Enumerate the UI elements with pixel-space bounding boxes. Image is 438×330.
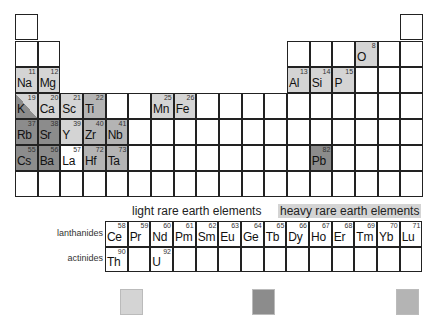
empty-cell <box>106 93 129 119</box>
empty-cell <box>264 145 287 171</box>
atomic-number: 73 <box>119 146 127 153</box>
atomic-number: 67 <box>322 222 330 229</box>
element-cell-th: Th90 <box>105 247 128 273</box>
element-symbol: Ti <box>85 102 94 116</box>
empty-cell <box>310 41 333 67</box>
element-symbol: Rb <box>17 128 32 142</box>
empty-cell <box>196 93 219 119</box>
empty-cell <box>174 145 197 171</box>
empty-cell <box>219 171 242 197</box>
element-symbol: Y <box>62 128 70 142</box>
element-symbol: Yb <box>379 230 393 244</box>
empty-cell <box>400 93 423 119</box>
empty-cell <box>128 145 151 171</box>
element-cell-ti: Ti22 <box>83 93 106 119</box>
element-symbol: Ba <box>40 154 54 168</box>
empty-cell <box>174 119 197 145</box>
empty-cell <box>128 119 151 145</box>
element-cell-k: K19 <box>15 93 38 119</box>
empty-cell <box>60 171 83 197</box>
element-symbol: Hf <box>85 154 96 168</box>
element-symbol: Tm <box>356 230 373 244</box>
element-cell-tm: Tm69 <box>354 221 377 247</box>
heavy-ree-label: heavy rare earth elements <box>278 204 421 218</box>
atomic-number: 65 <box>277 222 285 229</box>
element-cell-si: Si14 <box>310 67 333 93</box>
empty-cell <box>38 171 61 197</box>
element-symbol: Mn <box>153 102 169 116</box>
empty-cell <box>400 247 423 273</box>
empty-cell <box>15 171 38 197</box>
empty-cell <box>128 93 151 119</box>
atomic-number: 55 <box>28 146 36 153</box>
element-symbol: Mg <box>40 76 56 90</box>
empty-cell <box>378 145 401 171</box>
atomic-number: 63 <box>231 222 239 229</box>
empty-cell <box>196 171 219 197</box>
atomic-number: 71 <box>413 222 421 229</box>
element-symbol: Sm <box>198 230 215 244</box>
legend-swatch-hfs <box>396 289 419 315</box>
element-cell-la: La57 <box>60 145 83 171</box>
element-symbol: K <box>17 102 25 116</box>
empty-cell <box>400 145 423 171</box>
light-ree-label: light rare earth elements <box>132 204 261 218</box>
element-symbol: Cs <box>17 154 31 168</box>
element-symbol: Ho <box>311 230 326 244</box>
empty-cell <box>15 14 38 40</box>
empty-cell <box>286 247 309 273</box>
element-cell-ho: Ho67 <box>309 221 332 247</box>
atomic-number: 68 <box>345 222 353 229</box>
atomic-number: 90 <box>118 248 126 255</box>
empty-cell <box>106 171 129 197</box>
element-cell-lu: Lu71 <box>400 221 423 247</box>
element-symbol: Ge <box>243 230 258 244</box>
element-cell-mg: Mg12 <box>38 67 61 93</box>
empty-cell <box>355 93 378 119</box>
atomic-number: 59 <box>141 222 149 229</box>
element-symbol: Ce <box>107 230 122 244</box>
atomic-number: 8 <box>372 42 376 49</box>
empty-cell <box>378 119 401 145</box>
atomic-number: 62 <box>209 222 217 229</box>
element-symbol: Sc <box>62 102 75 116</box>
empty-cell <box>332 93 355 119</box>
element-symbol: Al <box>289 76 299 90</box>
atomic-number: 37 <box>28 120 36 127</box>
empty-cell <box>83 171 106 197</box>
element-symbol: Ca <box>40 102 55 116</box>
empty-cell <box>309 247 332 273</box>
empty-cell <box>151 171 174 197</box>
empty-cell <box>219 119 242 145</box>
element-cell-pm: Pm61 <box>173 221 196 247</box>
atomic-number: 72 <box>96 146 104 153</box>
empty-cell <box>400 14 423 40</box>
element-cell-ta: Ta73 <box>106 145 129 171</box>
empty-cell <box>355 171 378 197</box>
element-cell-ca: Ca20 <box>38 93 61 119</box>
atomic-number: 56 <box>51 146 59 153</box>
atomic-number: 21 <box>73 94 81 101</box>
empty-cell <box>287 145 310 171</box>
atomic-number: 40 <box>96 120 104 127</box>
atomic-number: 20 <box>51 94 59 101</box>
empty-cell <box>400 171 423 197</box>
atomic-number: 26 <box>187 94 195 101</box>
element-symbol: Th <box>107 255 120 269</box>
element-cell-nd: Nd60 <box>150 221 173 247</box>
element-symbol: Si <box>312 76 322 90</box>
element-cell-ce: Ce58 <box>105 221 128 247</box>
actinides-label: actinides <box>23 253 103 263</box>
element-symbol: Nb <box>108 128 123 142</box>
element-symbol: Pb <box>312 154 326 168</box>
element-symbol: Er <box>334 230 345 244</box>
empty-cell <box>218 247 241 273</box>
element-cell-sc: Sc21 <box>60 93 83 119</box>
empty-cell <box>196 119 219 145</box>
atomic-number: 11 <box>28 68 35 75</box>
element-cell-pr: Pr59 <box>128 221 151 247</box>
empty-cell <box>400 41 423 67</box>
empty-cell <box>173 247 196 273</box>
atomic-number: 66 <box>299 222 307 229</box>
empty-cell <box>151 119 174 145</box>
